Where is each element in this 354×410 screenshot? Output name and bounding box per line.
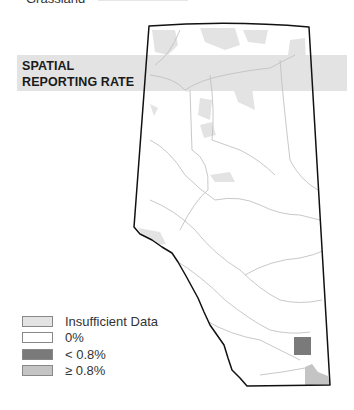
legend-label: Insufficient Data [65, 314, 158, 329]
rivers [150, 30, 325, 375]
legend-item-zero: 0% [22, 330, 158, 347]
legend-swatch-high [22, 365, 53, 376]
map-title: SPATIAL REPORTING RATE [22, 58, 134, 90]
legend-label: < 0.8% [65, 347, 106, 362]
legend-label: 0% [65, 330, 84, 345]
title-line-1: SPATIAL [22, 58, 134, 74]
legend-swatch-insufficient [22, 316, 53, 327]
legend-item-high: ≥ 0.8% [22, 363, 158, 380]
legend-item-insufficient: Insufficient Data [22, 313, 158, 330]
legend: Insufficient Data 0% < 0.8% ≥ 0.8% [22, 313, 158, 379]
legend-swatch-zero [22, 332, 53, 343]
insufficient-data-patches [138, 28, 330, 385]
legend-label: ≥ 0.8% [65, 363, 105, 378]
title-line-2: REPORTING RATE [22, 74, 134, 90]
legend-swatch-low [22, 349, 53, 360]
legend-item-low: < 0.8% [22, 346, 158, 363]
